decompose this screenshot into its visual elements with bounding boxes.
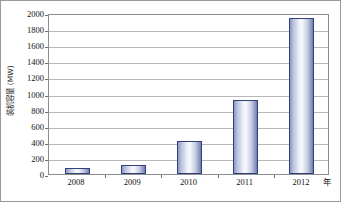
y-axis-tick-mark [45, 63, 48, 64]
x-axis-tick-label: 2009 [124, 178, 141, 187]
y-axis-tick-mark [45, 128, 48, 129]
y-axis-tick-label: 1800 [27, 26, 44, 35]
y-axis-tick-label: 1200 [27, 74, 44, 83]
y-axis-tick-mark [45, 79, 48, 80]
bar-chart-figure: 装机容量 (MW) 020040060080010001200140016001… [0, 0, 341, 202]
x-axis-tick-label: 2012 [292, 178, 309, 187]
y-axis-tick-mark [45, 47, 48, 48]
y-axis-tick-label: 0 [40, 171, 44, 180]
y-axis-tick-mark [45, 144, 48, 145]
y-axis-tick-label: 200 [31, 155, 44, 164]
x-axis-tick-labels: 20082009201020112012 [48, 178, 329, 194]
y-axis-tick-label: 1000 [27, 90, 44, 99]
plot-area [48, 14, 329, 175]
x-axis-unit-label: 年 [323, 178, 332, 187]
x-axis-tick-label: 2010 [180, 178, 197, 187]
y-axis-tick-label: 400 [31, 139, 44, 148]
y-axis-tick-mark [45, 96, 48, 97]
bar [289, 18, 314, 174]
y-axis-tick-mark [45, 160, 48, 161]
bar-series [49, 15, 328, 174]
bar [65, 168, 90, 174]
y-axis-tick-mark [45, 112, 48, 113]
y-axis-tick-label: 600 [31, 122, 44, 131]
y-axis-tick-label: 1600 [27, 42, 44, 51]
y-axis-tick-label: 800 [31, 106, 44, 115]
y-axis-tick-labels: 0200400600800100012001400160018002000 [15, 9, 46, 176]
y-axis-tick-label: 2000 [27, 10, 44, 19]
bar [177, 141, 202, 174]
bar [121, 165, 146, 174]
x-axis-tick-label: 2011 [236, 178, 253, 187]
y-axis-title-text: 装机容量 (MW) [4, 65, 15, 115]
bar [233, 100, 258, 174]
y-axis-tick-label: 1400 [27, 58, 44, 67]
y-axis-tick-mark [45, 176, 48, 177]
x-axis-tick-label: 2008 [68, 178, 85, 187]
y-axis-tick-mark [45, 15, 48, 16]
y-axis-tick-mark [45, 31, 48, 32]
